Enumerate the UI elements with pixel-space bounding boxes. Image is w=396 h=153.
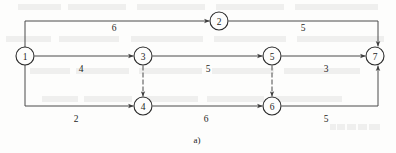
edge-weight-1-4: 2 xyxy=(74,114,79,124)
edge-weight-3-5: 5 xyxy=(206,64,211,74)
node-3-label: 3 xyxy=(141,52,146,62)
edge-weight-4-6: 6 xyxy=(204,114,209,124)
node-5[interactable]: 5 xyxy=(263,47,281,65)
node-6-label: 6 xyxy=(270,102,275,112)
edge-weight-5-7: 3 xyxy=(324,64,329,74)
node-7-label: 7 xyxy=(373,52,378,62)
figure-caption: a) xyxy=(194,135,201,145)
node-4[interactable]: 4 xyxy=(134,97,152,115)
edge-weight-2-7: 5 xyxy=(301,23,306,33)
node-5-label: 5 xyxy=(270,52,275,62)
edge-weight-6-7: 5 xyxy=(324,114,329,124)
node-2[interactable]: 2 xyxy=(210,12,228,30)
network-diagram: 1 2 3 4 5 6 7 6 5 4 5 3 2 xyxy=(0,0,396,153)
figure-canvas: 1 2 3 4 5 6 7 6 5 4 5 3 2 xyxy=(0,0,396,153)
edge-weight-1-3: 4 xyxy=(79,64,84,74)
node-1[interactable]: 1 xyxy=(16,47,34,65)
node-4-label: 4 xyxy=(141,102,146,112)
node-6[interactable]: 6 xyxy=(263,97,281,115)
edge-6-to-7 xyxy=(282,66,378,106)
node-2-label: 2 xyxy=(217,17,222,27)
node-1-label: 1 xyxy=(23,52,28,62)
edge-weight-1-2: 6 xyxy=(112,23,117,33)
node-7[interactable]: 7 xyxy=(366,47,384,65)
edge-1-to-2 xyxy=(25,21,209,47)
node-3[interactable]: 3 xyxy=(134,47,152,65)
